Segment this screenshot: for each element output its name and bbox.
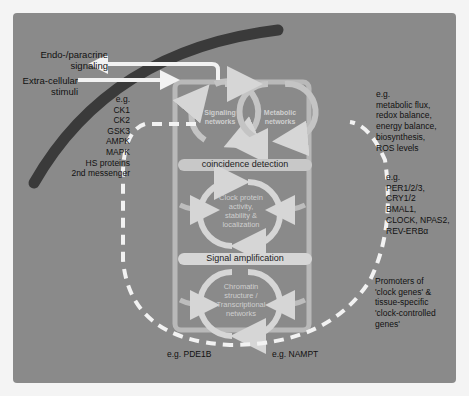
- clock-protein-label: Clock protein activity, stability & loca…: [210, 193, 272, 229]
- kinase-examples: e.g. CK1 CK2 GSK3 AMPK MAPK HS proteins …: [40, 94, 130, 179]
- kinase-item: CK1: [40, 105, 130, 116]
- kinase-item: MAPK: [40, 147, 130, 158]
- kinase-item: GSK3: [40, 126, 130, 137]
- kinase-item: 2nd messenger: [40, 168, 130, 179]
- pde1b-example: e.g. PDE1B: [167, 349, 211, 360]
- metabolic-examples: e.g. metabolic flux, redox balance, ener…: [376, 89, 456, 153]
- arrow-right-into-clock: [280, 205, 305, 210]
- endo-paracrine-label: Endo-/paracrine signaling: [18, 49, 108, 71]
- promoters-annotation: Promoters of 'clock genes' & tissue-spec…: [375, 276, 455, 330]
- nampt-example: e.g. NAMPT: [272, 349, 318, 360]
- kinase-item: CK2: [40, 115, 130, 126]
- clock-gene-examples: e.g. PER1/2/3, CRY1/2 BMAL1, CLOCK, NPAS…: [386, 172, 458, 236]
- kinase-item: AMPK: [40, 136, 130, 147]
- metabolic-networks-label: Metabolic networks: [250, 108, 310, 126]
- chromatin-label: Chromatin structure / Transcriptional ne…: [205, 282, 277, 318]
- kinase-item: HS proteins: [40, 158, 130, 169]
- signaling-networks-label: Signaling networks: [190, 108, 250, 126]
- coincidence-detection-label: coincidence detection: [178, 159, 312, 169]
- signal-amplification-label: Signal amplification: [178, 253, 312, 263]
- arrow-right-into-chromatin: [280, 300, 305, 305]
